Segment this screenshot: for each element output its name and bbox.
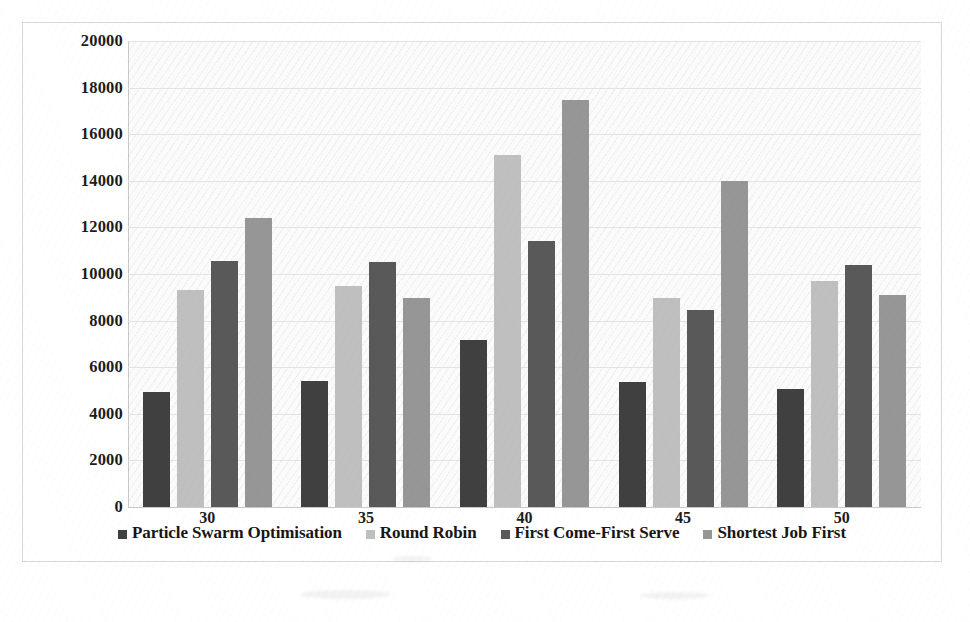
y-axis-tick-label: 0 [31, 497, 123, 517]
legend-item[interactable]: Round Robin [366, 523, 477, 543]
legend-label: Particle Swarm Optimisation [132, 523, 342, 543]
legend-swatch-icon [118, 530, 127, 539]
legend-swatch-icon [366, 530, 375, 539]
bar[interactable] [460, 340, 487, 507]
gridline [128, 507, 921, 508]
y-axis-tick-label: 6000 [31, 357, 123, 377]
bar[interactable] [687, 310, 714, 507]
bar-group-50 [762, 41, 921, 507]
chart-legend: Particle Swarm OptimisationRound RobinFi… [23, 523, 941, 543]
y-axis-tick-label: 12000 [31, 217, 123, 237]
bar[interactable] [494, 155, 521, 507]
bar[interactable] [777, 389, 804, 507]
bar[interactable] [721, 181, 748, 507]
y-axis-tick-label: 14000 [31, 171, 123, 191]
bar[interactable] [211, 261, 238, 507]
bar[interactable] [143, 392, 170, 507]
y-axis-tick-labels: 0200040006000800010000120001400016000180… [23, 41, 123, 507]
y-axis-tick-label: 4000 [31, 404, 123, 424]
bar[interactable] [879, 295, 906, 507]
bar[interactable] [653, 298, 680, 507]
bar-group-35 [287, 41, 446, 507]
bar-group-40 [445, 41, 604, 507]
bar[interactable] [562, 100, 589, 507]
legend-label: Round Robin [380, 523, 477, 543]
scan-smudge [640, 592, 710, 599]
y-axis-tick-label: 18000 [31, 78, 123, 98]
y-axis-tick-label: 8000 [31, 311, 123, 331]
bar[interactable] [177, 290, 204, 507]
scan-smudge [300, 590, 390, 599]
bar[interactable] [301, 381, 328, 507]
bar[interactable] [245, 218, 272, 507]
y-axis-tick-label: 2000 [31, 450, 123, 470]
y-axis-tick-label: 16000 [31, 124, 123, 144]
legend-item[interactable]: Shortest Job First [703, 523, 846, 543]
bar-group-45 [604, 41, 763, 507]
y-axis-tick-label: 20000 [31, 31, 123, 51]
legend-swatch-icon [703, 530, 712, 539]
legend-label: First Come-First Serve [515, 523, 680, 543]
bar[interactable] [845, 265, 872, 507]
legend-swatch-icon [501, 530, 510, 539]
legend-item[interactable]: First Come-First Serve [501, 523, 680, 543]
legend-item[interactable]: Particle Swarm Optimisation [118, 523, 342, 543]
bar[interactable] [335, 286, 362, 507]
scan-smudge [392, 556, 432, 562]
chart-frame: 0200040006000800010000120001400016000180… [22, 22, 942, 562]
plot-area [128, 41, 921, 507]
bar[interactable] [811, 281, 838, 507]
legend-label: Shortest Job First [717, 523, 846, 543]
y-axis-tick-label: 10000 [31, 264, 123, 284]
bar[interactable] [369, 262, 396, 507]
bar-group-30 [128, 41, 287, 507]
bar[interactable] [619, 382, 646, 507]
bar[interactable] [528, 241, 555, 507]
bar-groups [128, 41, 921, 507]
bar[interactable] [403, 298, 430, 507]
